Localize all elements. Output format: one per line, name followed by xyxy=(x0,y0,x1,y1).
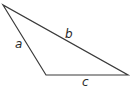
side-a-label: a xyxy=(15,37,22,51)
triangle-diagram: a b c xyxy=(0,0,134,90)
side-b-label: b xyxy=(65,27,73,41)
side-c-label: c xyxy=(82,75,89,89)
